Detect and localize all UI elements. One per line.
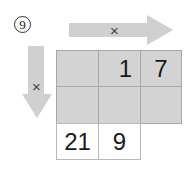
grid-cell-r1c2: 1	[98, 50, 141, 87]
grid-cell-r1c1	[56, 50, 99, 87]
grid-cell-r3c2: 9	[98, 123, 141, 160]
grid-cell-r2c3	[140, 86, 182, 124]
grid-cell-r2c2	[98, 86, 141, 124]
multiply-sign-vertical: ×	[32, 79, 41, 94]
problem-number-badge: 9	[14, 16, 31, 33]
grid-cell-r1c3: 7	[140, 50, 182, 87]
multiplication-grid: 1 7 21 9	[56, 50, 182, 160]
multiply-sign-horizontal: ×	[110, 23, 119, 38]
grid-cell-r2c1	[56, 86, 99, 124]
grid-cell-r3c1: 21	[56, 123, 99, 160]
right-arrow-icon	[69, 15, 173, 45]
